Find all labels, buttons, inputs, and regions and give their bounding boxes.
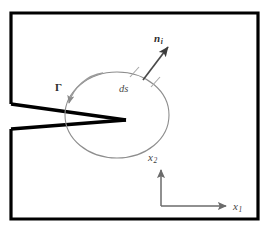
crack-lower-flank: [11, 120, 126, 129]
contour-gamma-label: Γ: [55, 82, 62, 93]
diagram-canvas: [0, 0, 268, 231]
crack-group: [11, 104, 126, 129]
crack-upper-flank: [11, 104, 126, 120]
axis-x1-label: x1: [233, 201, 242, 213]
normal-vector-arrow: [143, 47, 168, 80]
normal-vector-label: ni: [154, 33, 163, 45]
gamma-pointer-arrow: [69, 73, 103, 103]
figure-container: ni ds Γ x2 x1: [0, 0, 268, 231]
body-outline-path: [11, 13, 258, 219]
gamma-pointer-group: [69, 73, 103, 103]
arc-element-label: ds: [119, 84, 128, 95]
axis-x2-label: x2: [148, 152, 157, 164]
coordinate-axes-group: [161, 170, 226, 206]
body-outline-group: [11, 13, 258, 219]
normal-vector-group: [143, 47, 168, 80]
